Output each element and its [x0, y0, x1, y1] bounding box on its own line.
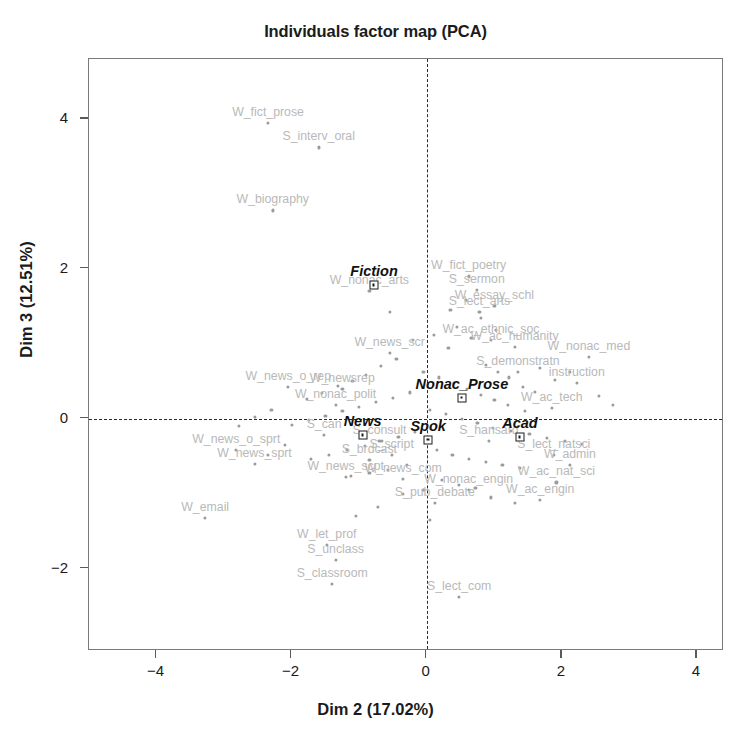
scatter-point — [518, 467, 521, 470]
scatter-point — [545, 437, 548, 440]
scatter-point — [487, 440, 490, 443]
scatter-point — [290, 423, 293, 426]
scatter-point — [368, 471, 371, 474]
centroid-label: Acad — [502, 415, 537, 431]
scatter-point — [287, 386, 290, 389]
scatter-point — [334, 404, 337, 407]
scatter-point — [408, 391, 411, 394]
scatter-point — [270, 408, 273, 411]
scatter-point — [358, 405, 361, 408]
scatter-point — [391, 396, 394, 399]
scatter-point — [368, 458, 371, 461]
centroid-label: Spok — [410, 418, 445, 434]
scatter-point — [397, 435, 400, 438]
individual-label: S_brdcast — [342, 442, 397, 456]
scatter-point — [341, 387, 344, 390]
scatter-point — [364, 374, 367, 377]
scatter-point — [458, 595, 461, 598]
individual-label: W_news_scpt — [307, 459, 384, 473]
individual-label: S_script — [369, 437, 413, 451]
scatter-point — [467, 458, 470, 461]
scatter-point — [412, 338, 415, 341]
scatter-point — [451, 453, 454, 456]
x-axis-label: Dim 2 (17.02%) — [0, 700, 751, 719]
scatter-point — [581, 443, 584, 446]
scatter-point — [575, 381, 578, 384]
scatter-point — [331, 582, 334, 585]
x-tick-mark — [425, 650, 426, 658]
scatter-point — [611, 404, 614, 407]
scatter-point — [354, 515, 357, 518]
scatter-point — [568, 371, 571, 374]
scatter-point — [493, 305, 496, 308]
centroid-label: News — [344, 413, 382, 429]
scatter-point — [433, 501, 436, 504]
scatter-point — [523, 410, 526, 413]
y-tick-label: −2 — [18, 559, 68, 576]
individual-label: W_ac_tech — [521, 390, 583, 404]
scatter-point — [489, 496, 492, 499]
scatter-point — [237, 425, 240, 428]
individual-label: W_ac_engin — [506, 482, 574, 496]
x-tick-label: 0 — [396, 662, 456, 679]
scatter-point — [485, 363, 488, 366]
page-title: Individuals factor map (PCA) — [0, 22, 751, 41]
scatter-point — [539, 498, 542, 501]
scatter-point — [344, 476, 347, 479]
scatter-point — [390, 453, 393, 456]
scatter-point — [464, 299, 467, 302]
y-tick-label: 4 — [18, 109, 68, 126]
y-tick-mark — [80, 117, 88, 118]
centroid-marker — [457, 393, 466, 402]
individual-label: W_ac_ethnic_soc — [442, 322, 539, 336]
scatter-point — [322, 434, 325, 437]
scatter-point — [444, 413, 447, 416]
scatter-point — [388, 311, 391, 314]
individual-label: S_demonstratn — [476, 354, 559, 368]
scatter-point — [479, 393, 482, 396]
scatter-point — [501, 464, 504, 467]
centroid-marker — [424, 435, 433, 444]
x-tick-label: 4 — [666, 662, 726, 679]
scatter-point — [470, 336, 473, 339]
individual-label: W_news_sprt — [217, 446, 292, 460]
scatter-point — [460, 417, 463, 420]
scatter-point — [388, 351, 391, 354]
individual-label: W_fict_prose — [232, 105, 304, 119]
x-tick-mark — [155, 650, 156, 658]
y-tick-label: 2 — [18, 259, 68, 276]
individual-label: S_pub_debate — [395, 485, 475, 499]
scatter-point — [550, 407, 553, 410]
scatter-point — [283, 443, 286, 446]
scatter-point — [467, 488, 470, 491]
scatter-point — [377, 506, 380, 509]
scatter-point — [456, 326, 459, 329]
scatter-point — [440, 479, 443, 482]
horizontal-reference-line — [89, 419, 722, 420]
scatter-point — [539, 366, 542, 369]
scatter-point — [513, 501, 516, 504]
scatter-point — [516, 371, 519, 374]
scatter-point — [513, 345, 516, 348]
scatter-point — [309, 458, 312, 461]
scatter-point — [564, 440, 567, 443]
scatter-point — [350, 474, 353, 477]
scatter-point — [402, 477, 405, 480]
scatter-point — [432, 333, 435, 336]
plot-area: W_fict_proseS_interv_oralW_biographyW_fi… — [89, 59, 722, 649]
scatter-point — [528, 432, 531, 435]
individual-label: instruction — [549, 365, 605, 379]
y-tick-label: 0 — [18, 409, 68, 426]
scatter-point — [479, 316, 482, 319]
scatter-point — [554, 378, 557, 381]
scatter-point — [363, 444, 366, 447]
individual-label: W_news_o_sprt — [192, 432, 280, 446]
scatter-point — [305, 398, 308, 401]
scatter-point — [476, 422, 479, 425]
scatter-point — [521, 386, 524, 389]
x-tick-mark — [560, 650, 561, 658]
scatter-point — [429, 518, 432, 521]
individual-label: W_news_scr — [354, 335, 424, 349]
individual-label: W_ac_humanity — [470, 329, 558, 343]
scatter-point — [334, 558, 337, 561]
